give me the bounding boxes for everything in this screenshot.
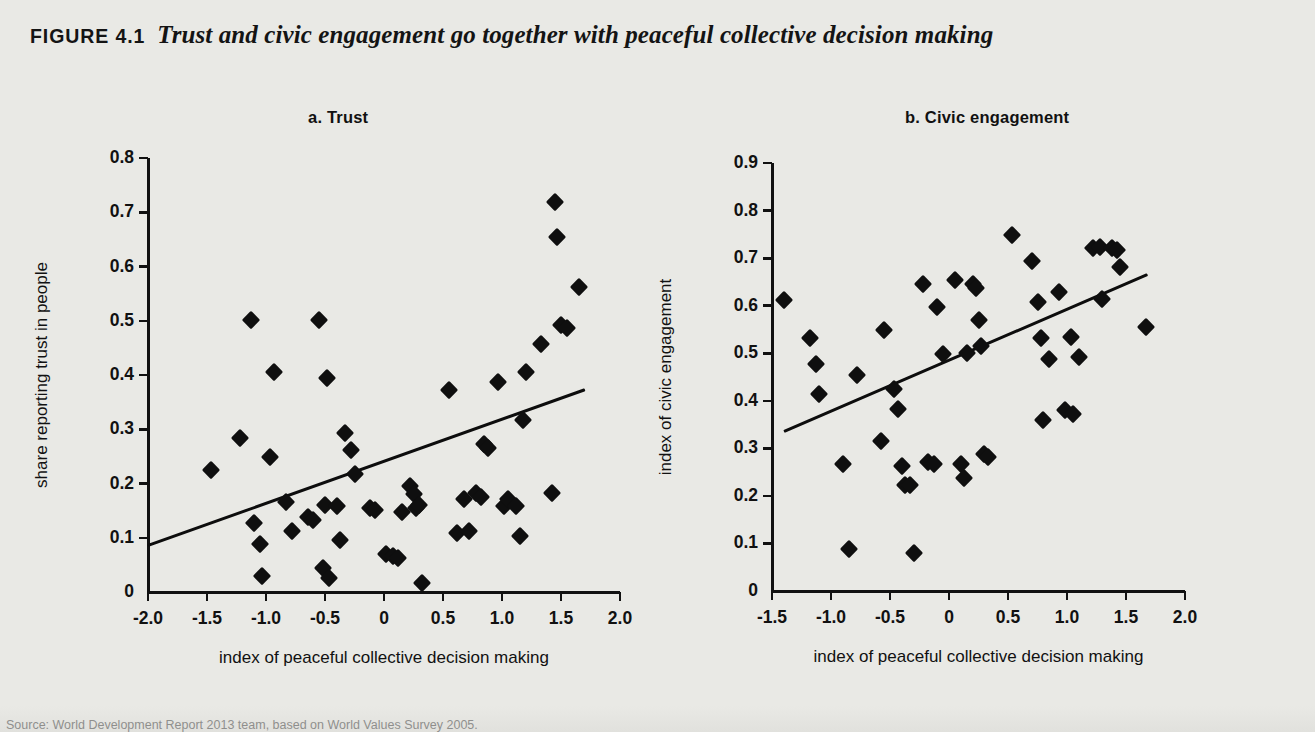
panel-b-data-point (969, 311, 987, 329)
panel-b-y-tick-label: 0.1 (700, 532, 758, 553)
panel-b-data-point (1111, 257, 1129, 275)
panel-b-data-point (834, 455, 852, 473)
panel-b-y-tick-label: 0.8 (700, 200, 758, 221)
panel-b-x-tick-label: 2.0 (1145, 607, 1225, 628)
panel-b-data-point (928, 298, 946, 316)
panel-b-data-point (810, 384, 828, 402)
panel-b-data-point (1061, 327, 1079, 345)
panel-b-y-axis (771, 163, 774, 593)
panel-b-plot: 00.10.20.30.40.50.60.70.80.9-1.5-1.0-0.5… (0, 0, 1315, 732)
panel-b-y-axis-title: index of civic engagement (656, 279, 676, 476)
panel-b-data-point (955, 469, 973, 487)
panel-b-data-point (775, 291, 793, 309)
panel-b-x-tick (1066, 591, 1069, 600)
panel-b-data-point (893, 457, 911, 475)
panel-b-x-tick (889, 591, 892, 600)
panel-b-data-point (904, 544, 922, 562)
panel-b-y-tick (763, 542, 772, 545)
panel-b-data-point (1032, 328, 1050, 346)
panel-b-y-tick (763, 352, 772, 355)
panel-b-y-tick-label: 0.4 (700, 390, 758, 411)
panel-b-data-point (875, 321, 893, 339)
panel-b-data-point (1002, 226, 1020, 244)
panel-b-y-tick (763, 495, 772, 498)
panel-b-data-point (1040, 350, 1058, 368)
panel-b-y-tick-label: 0.2 (700, 485, 758, 506)
panel-b-y-tick (763, 209, 772, 212)
panel-b-x-tick (1125, 591, 1128, 600)
panel-b-y-tick (763, 400, 772, 403)
panel-b-data-point (914, 275, 932, 293)
panel-b-data-point (806, 354, 824, 372)
panel-b-x-tick (830, 591, 833, 600)
panel-b-data-point (1050, 283, 1068, 301)
panel-b-y-tick-label: 0.9 (700, 152, 758, 173)
panel-b-data-point (1034, 411, 1052, 429)
panel-b-data-point (848, 365, 866, 383)
panel-b-data-point (889, 400, 907, 418)
panel-b-data-point (946, 271, 964, 289)
panel-b-y-tick (763, 162, 772, 165)
panel-b-data-point (1070, 348, 1088, 366)
panel-b-y-tick-label: 0.6 (700, 295, 758, 316)
panel-b-data-point (871, 432, 889, 450)
panel-b-data-point (801, 328, 819, 346)
panel-b-data-point (839, 540, 857, 558)
panel-b-x-tick (948, 591, 951, 600)
panel-b-y-tick-label: 0.5 (700, 342, 758, 363)
panel-b-data-point (1022, 252, 1040, 270)
panel-b-x-tick (771, 591, 774, 600)
panel-b-data-point (952, 454, 970, 472)
panel-b-y-tick-label: 0 (700, 580, 758, 601)
panel-b-y-tick (763, 447, 772, 450)
panel-b-x-tick (1007, 591, 1010, 600)
panel-b-data-point (1137, 318, 1155, 336)
panel-b-y-tick (763, 304, 772, 307)
panel-b-y-tick-label: 0.7 (700, 247, 758, 268)
source-note: Source: World Development Report 2013 te… (6, 718, 478, 732)
panel-b-x-tick (1184, 591, 1187, 600)
panel-b-data-point (1028, 293, 1046, 311)
panel-b-x-axis (772, 590, 1185, 593)
panel-b-x-axis-title: index of peaceful collective decision ma… (789, 647, 1169, 667)
panel-b-y-tick (763, 257, 772, 260)
panel-b-y-tick-label: 0.3 (700, 437, 758, 458)
figure-container: FIGURE 4.1Trust and civic engagement go … (0, 0, 1315, 732)
